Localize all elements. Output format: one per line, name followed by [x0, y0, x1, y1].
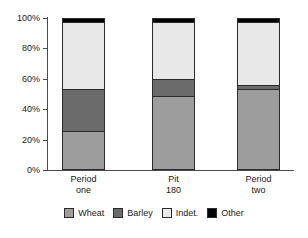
x-category-label: Periodtwo [216, 174, 302, 196]
legend-swatch-icon [113, 208, 123, 218]
legend-swatch-icon [207, 208, 217, 218]
x-category-label: Pit180 [131, 174, 217, 196]
y-tick-label: 60% [22, 75, 40, 84]
legend-swatch-icon [64, 208, 74, 218]
bar-segment-barley [63, 89, 104, 131]
y-tick-mark [43, 109, 47, 110]
x-category-label-line: Period [216, 174, 302, 185]
y-tick-mark [43, 140, 47, 141]
y-tick-label: 40% [22, 105, 40, 114]
bar-segment-wheat [238, 89, 279, 169]
x-category-label: Periodone [41, 174, 127, 196]
x-category-label-line: two [216, 185, 302, 196]
bar-segment-barley [153, 79, 194, 96]
y-tick-mark [43, 18, 47, 19]
legend-item-wheat[interactable]: Wheat [64, 208, 104, 218]
bar-segment-indet [63, 22, 104, 90]
y-tick-label: 80% [22, 44, 40, 53]
legend-item-barley[interactable]: Barley [113, 208, 153, 218]
y-tick-mark [43, 170, 47, 171]
y-tick-label: 20% [22, 136, 40, 145]
y-tick-mark [43, 79, 47, 80]
x-category-label-line: Period [41, 174, 127, 185]
legend-item-other[interactable]: Other [207, 208, 244, 218]
y-tick-label: 0% [27, 166, 40, 175]
legend-item-indet[interactable]: Indet. [162, 208, 199, 218]
x-category-label-line: Pit [131, 174, 217, 185]
bar-segment-indet [153, 22, 194, 79]
plot-area [48, 18, 293, 170]
chart-legend: WheatBarleyIndet.Other [0, 208, 308, 218]
bar-segment-indet [238, 22, 279, 85]
x-category-label-line: 180 [131, 185, 217, 196]
legend-label: Indet. [176, 208, 199, 218]
x-category-label-line: one [41, 185, 127, 196]
stacked-bar-chart: 100%80%60%40%20%0% PeriodonePit180Period… [0, 0, 308, 238]
legend-swatch-icon [162, 208, 172, 218]
y-tick-label: 100% [17, 14, 40, 23]
legend-label: Wheat [78, 208, 104, 218]
bar-pit-180 [152, 18, 195, 170]
legend-label: Barley [127, 208, 153, 218]
bar-segment-wheat [63, 131, 104, 169]
bar-segment-wheat [153, 96, 194, 170]
x-axis-line [47, 170, 294, 171]
y-tick-mark [43, 48, 47, 49]
legend-label: Other [221, 208, 244, 218]
bar-period-two [237, 18, 280, 170]
bar-period-one [62, 18, 105, 170]
